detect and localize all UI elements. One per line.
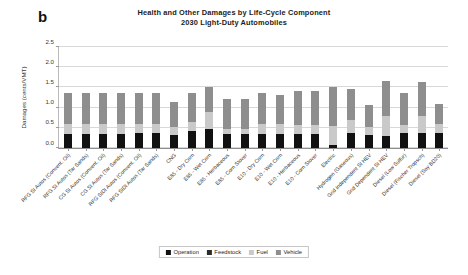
bar-segment-operation: [205, 129, 213, 148]
bar-slot: [59, 47, 77, 148]
bar-slot: [324, 47, 342, 148]
legend-item[interactable]: Vehicle: [276, 249, 302, 255]
bar-segment-fuel: [382, 116, 390, 136]
bar-segment-vehicle: [276, 95, 284, 124]
legend-swatch-icon: [276, 250, 281, 255]
stacked-bar[interactable]: [223, 99, 231, 148]
bar-segment-fuel: [294, 125, 302, 134]
chart-title-line-2: 2030 Light-Duty Automobiles: [0, 18, 468, 28]
y-axis-title-text: Damages (cents/VMT): [21, 67, 28, 129]
bar-segment-operation: [135, 133, 143, 148]
bar-segment-vehicle: [241, 99, 249, 128]
bar-segment-vehicle: [400, 93, 408, 125]
bar-segment-vehicle: [152, 93, 160, 124]
stacked-bar[interactable]: [294, 91, 302, 148]
stacked-bar[interactable]: [418, 82, 426, 148]
bar-segment-operation: [311, 134, 319, 148]
stacked-bar[interactable]: [435, 104, 443, 148]
bar-segment-operation: [241, 134, 249, 148]
bar-segment-operation: [382, 136, 390, 148]
x-axis-labels: RFG SI Autos (Convent. Oil)RFG SI Autos …: [58, 150, 447, 235]
bar-slot: [112, 47, 130, 148]
stacked-bar[interactable]: [188, 93, 196, 148]
stacked-bar[interactable]: [170, 102, 178, 148]
stacked-bar[interactable]: [347, 89, 355, 148]
legend-item[interactable]: Operation: [166, 249, 199, 255]
bar-slot: [377, 47, 395, 148]
chart-title-line-1: Health and Other Damages by Life-Cycle C…: [0, 8, 468, 18]
bar-segment-vehicle: [258, 93, 266, 124]
bar-slot: [236, 47, 254, 148]
bar-segment-vehicle: [294, 91, 302, 125]
bar-segment-vehicle: [435, 104, 443, 124]
bar-segment-operation: [188, 131, 196, 148]
bar-slot: [147, 47, 165, 148]
stacked-bar[interactable]: [135, 93, 143, 148]
stacked-bar[interactable]: [82, 93, 90, 148]
bar-segment-operation: [276, 134, 284, 148]
x-axis-label-slot: Diesel (Soy BD20): [429, 150, 447, 235]
bar-segment-vehicle: [82, 93, 90, 124]
bar-segment-vehicle: [188, 93, 196, 122]
bar-segment-fuel: [64, 124, 72, 134]
bar-segment-vehicle: [117, 93, 125, 124]
legend-swatch-icon: [249, 250, 254, 255]
stacked-bar[interactable]: [152, 93, 160, 148]
y-axis-tick-label: 0.5: [45, 118, 54, 125]
bar-slot: [77, 47, 95, 148]
bar-slot: [183, 47, 201, 148]
bar-segment-fuel: [276, 124, 284, 134]
stacked-bar[interactable]: [258, 93, 266, 148]
bar-segment-operation: [117, 134, 125, 148]
bar-slot: [360, 47, 378, 148]
bar-segment-operation: [82, 134, 90, 148]
y-axis-tick-label: 0.0: [45, 138, 54, 145]
stacked-bar[interactable]: [311, 91, 319, 148]
bar-segment-fuel: [152, 124, 160, 133]
stacked-bar[interactable]: [400, 93, 408, 148]
bar-segment-fuel: [329, 126, 337, 145]
stacked-bar[interactable]: [365, 105, 373, 148]
bar-segment-fuel: [435, 124, 443, 134]
stacked-bar[interactable]: [329, 87, 337, 148]
stacked-bar[interactable]: [99, 93, 107, 148]
bar-segment-vehicle: [418, 82, 426, 116]
stacked-bar[interactable]: [117, 93, 125, 148]
stacked-bar[interactable]: [205, 87, 213, 148]
legend-label: Feedstock: [214, 249, 241, 255]
bar-slot: [165, 47, 183, 148]
x-axis-label: Electric: [320, 152, 337, 169]
y-axis-tick-label: 1.5: [45, 77, 54, 84]
bar-segment-operation: [418, 133, 426, 148]
bar-slot: [289, 47, 307, 148]
stacked-bar[interactable]: [276, 95, 284, 148]
bar-segment-vehicle: [365, 105, 373, 126]
bar-slot: [218, 47, 236, 148]
stacked-bar[interactable]: [64, 93, 72, 148]
bar-group: [59, 47, 448, 148]
y-axis-tick-label: 1.0: [45, 98, 54, 105]
bar-segment-fuel: [365, 127, 373, 135]
y-axis-tick-label: 2.0: [45, 57, 54, 64]
stacked-bar[interactable]: [382, 81, 390, 148]
bar-segment-operation: [223, 134, 231, 148]
bar-segment-fuel: [117, 124, 125, 134]
bar-segment-operation: [64, 134, 72, 148]
bar-segment-vehicle: [223, 99, 231, 128]
y-axis-tick-label: 2.5: [45, 37, 54, 44]
bar-segment-fuel: [99, 124, 107, 134]
bar-segment-operation: [347, 133, 355, 148]
bar-segment-fuel: [258, 124, 266, 134]
bar-segment-vehicle: [347, 89, 355, 121]
bar-segment-fuel: [188, 122, 196, 131]
bar-segment-fuel: [347, 120, 355, 133]
bar-segment-vehicle: [205, 87, 213, 113]
bar-segment-fuel: [82, 124, 90, 134]
legend-item[interactable]: Fuel: [249, 249, 268, 255]
legend-label: Vehicle: [283, 249, 302, 255]
stacked-bar[interactable]: [241, 99, 249, 148]
legend-label: Fuel: [257, 249, 268, 255]
legend-item[interactable]: Feedstock: [207, 249, 241, 255]
y-axis-title: Damages (cents/VMT): [18, 47, 30, 148]
chart-legend: OperationFeedstockFuelVehicle: [159, 246, 309, 258]
